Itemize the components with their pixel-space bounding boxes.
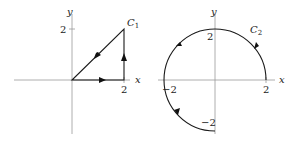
left-y-tick-label: 2 xyxy=(60,24,66,35)
left-x-label: x xyxy=(135,74,141,85)
arrow-upper-right-icon xyxy=(254,42,259,49)
figure-canvas: y x 2 2 C1 y x 2 −2 2 −2 C2 xyxy=(0,0,296,143)
right-x-label: x xyxy=(279,74,285,85)
left-y-label: y xyxy=(66,6,73,17)
panel-left: y x 2 2 C1 xyxy=(14,6,141,134)
arrow-up-icon xyxy=(121,53,127,61)
right-x-pos-label: 2 xyxy=(263,84,269,95)
arrow-right-icon xyxy=(99,77,106,83)
right-y-label: y xyxy=(210,6,217,17)
right-y-pos-label: 2 xyxy=(207,31,213,42)
panel-right: y x 2 −2 2 −2 C2 xyxy=(158,6,285,134)
right-y-neg-label: −2 xyxy=(201,117,216,128)
curve-label-c2: C2 xyxy=(250,24,262,37)
curve-label-c1: C1 xyxy=(127,17,139,30)
left-x-tick-label: 2 xyxy=(121,84,127,95)
